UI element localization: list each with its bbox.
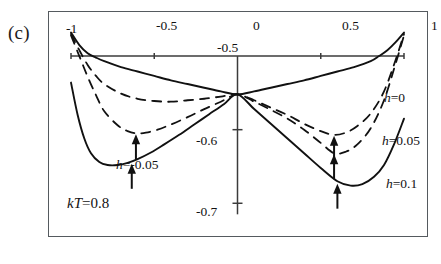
y-tick-label--0.6: -0.6 — [196, 134, 217, 148]
y-tick-label--0.7: -0.7 — [196, 205, 217, 219]
curve-label-h--0.05: h=-0.05 — [116, 158, 158, 172]
x-tick-label--1: -1 — [66, 22, 77, 36]
figure-panel-c: (c) -1 -0.5 0 0.5 1 -0.5 -0.6 -0.7 h=0 h… — [0, 0, 441, 264]
x-tick-label--0.5: -0.5 — [156, 19, 177, 33]
curve-label-h-0.1: h=0.1 — [386, 177, 417, 191]
axes-group — [71, 53, 404, 214]
curve-label-h-0.05: h=0.05 — [382, 134, 420, 148]
x-tick-label-0.5: 0.5 — [342, 19, 359, 33]
curve-label-h-0: h=0 — [384, 91, 405, 105]
y-tick-label--0.5: -0.5 — [217, 41, 238, 55]
panel-label: (c) — [8, 22, 30, 44]
annotation-kt: kT=0.8 — [67, 196, 109, 211]
arrow-marker — [132, 134, 140, 159]
plot-frame: -1 -0.5 0 0.5 1 -0.5 -0.6 -0.7 h=0 h=0.0… — [48, 11, 428, 237]
x-tick-label-0: 0 — [253, 19, 260, 33]
arrow-marker — [333, 184, 341, 209]
x-tick-label-1: 1 — [431, 19, 438, 33]
